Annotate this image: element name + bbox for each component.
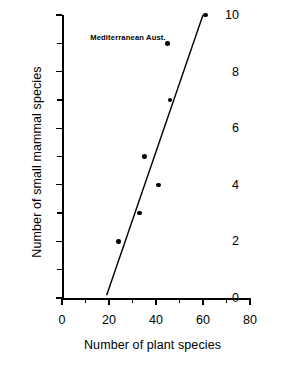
plot-area: 0246810 020406080 Mediterranean Aust. (62, 15, 250, 298)
x-tick-major (155, 298, 156, 305)
x-tick-label: 60 (187, 314, 219, 327)
x-tick-major (249, 298, 250, 305)
plot-annotation-label: Mediterranean Aust. (90, 33, 166, 42)
data-point (165, 41, 170, 46)
regression-line (62, 15, 250, 298)
x-tick-label: 40 (140, 314, 172, 327)
y-axis-title: Number of small mammal species (30, 32, 44, 292)
data-point (142, 154, 147, 159)
x-tick-major (202, 298, 203, 305)
x-tick-label: 20 (93, 314, 125, 327)
scatter-plot-figure: Number of small mammal species 0246810 0… (0, 0, 305, 369)
x-tick-major (108, 298, 109, 305)
x-tick-major (61, 298, 62, 305)
x-tick-minor (85, 298, 86, 303)
x-tick-label: 80 (234, 314, 266, 327)
x-axis-title: Number of plant species (0, 338, 305, 352)
x-tick-minor (132, 298, 133, 303)
data-point (156, 183, 161, 188)
x-tick-label: 0 (46, 314, 78, 327)
x-tick-minor (226, 298, 227, 303)
data-point (116, 239, 121, 244)
data-point (203, 13, 208, 18)
x-tick-minor (179, 298, 180, 303)
